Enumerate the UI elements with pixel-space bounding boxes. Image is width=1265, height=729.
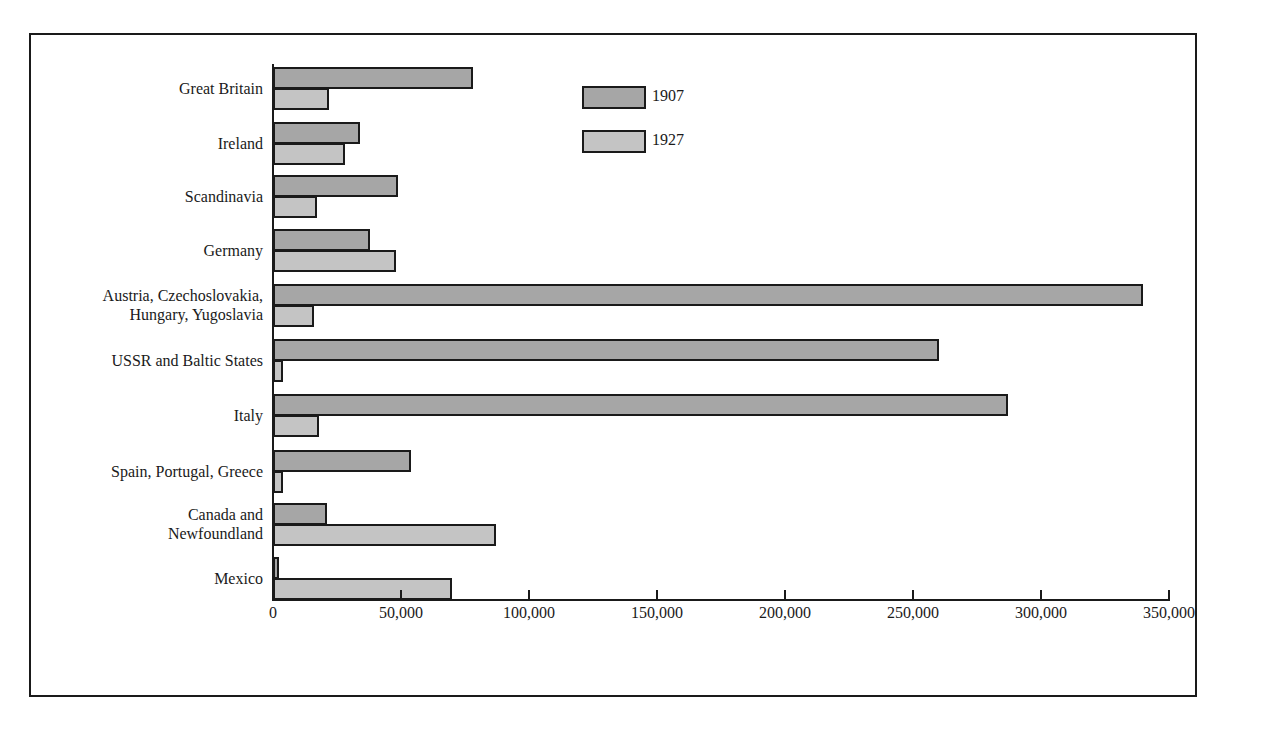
bar-1907 <box>273 339 939 361</box>
x-tick <box>656 590 658 600</box>
x-tick <box>1040 590 1042 600</box>
bar-1927 <box>273 415 319 437</box>
category-label: Italy <box>234 406 263 425</box>
x-tick-label: 350,000 <box>1143 604 1195 622</box>
x-tick <box>912 590 914 600</box>
bar-1927 <box>273 196 317 218</box>
x-tick-label: 0 <box>269 604 277 622</box>
bar-1907 <box>273 67 473 89</box>
category-label: Spain, Portugal, Greece <box>111 462 263 481</box>
bar-1927 <box>273 524 496 546</box>
x-tick <box>400 590 402 600</box>
category-label: Mexico <box>214 569 263 588</box>
category-label: Ireland <box>218 134 263 153</box>
legend-swatch-1927 <box>582 130 646 153</box>
bar-1907 <box>273 284 1143 306</box>
bar-1907 <box>273 557 279 579</box>
bar-1927 <box>273 578 452 600</box>
category-label: Canada andNewfoundland <box>168 505 263 543</box>
x-tick-label: 200,000 <box>759 604 811 622</box>
category-label: Great Britain <box>179 79 263 98</box>
legend-swatch-1907 <box>582 86 646 109</box>
x-tick <box>1168 590 1170 600</box>
bar-1907 <box>273 503 327 525</box>
category-label: Germany <box>203 241 263 260</box>
x-tick-label: 50,000 <box>379 604 423 622</box>
x-tick-label: 100,000 <box>503 604 555 622</box>
bar-1907 <box>273 122 360 144</box>
bar-1927 <box>273 88 329 110</box>
x-tick <box>784 590 786 600</box>
bar-1927 <box>273 360 283 382</box>
x-tick <box>528 590 530 600</box>
bar-1907 <box>273 229 370 251</box>
x-tick-label: 250,000 <box>887 604 939 622</box>
category-label: USSR and Baltic States <box>111 351 263 370</box>
legend-label-1927: 1927 <box>652 131 684 149</box>
bar-1927 <box>273 471 283 493</box>
legend-label-1907: 1907 <box>652 87 684 105</box>
category-label: Scandinavia <box>185 187 263 206</box>
x-tick-label: 300,000 <box>1015 604 1067 622</box>
bar-chart: 1907 1927 Great BritainIrelandScandinavi… <box>0 0 1265 729</box>
bar-1927 <box>273 143 345 165</box>
bar-1927 <box>273 250 396 272</box>
x-tick-label: 150,000 <box>631 604 683 622</box>
bar-1927 <box>273 305 314 327</box>
bar-1907 <box>273 450 411 472</box>
bar-1907 <box>273 175 398 197</box>
category-label: Austria, Czechoslovakia,Hungary, Yugosla… <box>103 286 263 324</box>
bar-1907 <box>273 394 1008 416</box>
